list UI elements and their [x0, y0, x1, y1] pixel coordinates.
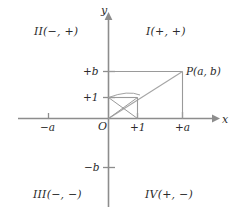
- quadrant-label-IV: IV(+, −): [145, 189, 193, 200]
- quadrant-label-III: III(−, −): [33, 189, 82, 200]
- y-tick-label-plus-b: +b: [83, 66, 99, 77]
- point-label-p: P(a, b): [186, 66, 221, 77]
- quadrant-label-II: II(−, +): [34, 26, 78, 37]
- x-tick-label-minus-a: −a: [40, 122, 55, 133]
- coordinate-plane-figure: II(−, +) I(+, +) III(−, −) IV(+, −) x y …: [0, 0, 233, 220]
- diagonal-o-to-p: [109, 72, 183, 119]
- y-tick-label-minus-b: −b: [84, 162, 100, 173]
- x-axis-arrowhead: [212, 115, 220, 123]
- origin-label: O: [98, 121, 107, 132]
- unit-square-arc: [109, 93, 141, 98]
- y-tick-label-plus-one: +1: [83, 92, 98, 103]
- x-tick-label-plus-one: +1: [130, 122, 145, 133]
- quadrant-label-I: I(+, +): [146, 26, 186, 37]
- x-axis-label: x: [222, 114, 228, 125]
- x-tick-label-plus-a: +a: [175, 122, 190, 133]
- y-axis: [105, 12, 113, 207]
- y-axis-label: y: [101, 5, 107, 16]
- unit-square-group: [109, 93, 141, 119]
